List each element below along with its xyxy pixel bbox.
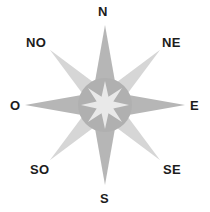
compass-label-ne: NE xyxy=(162,36,181,49)
compass-label-o: O xyxy=(10,99,20,112)
compass-label-se: SE xyxy=(163,163,181,176)
compass-hub-star xyxy=(81,81,129,129)
compass-label-no: NO xyxy=(26,36,46,49)
compass-label-e: E xyxy=(190,99,199,112)
compass-label-s: S xyxy=(100,192,109,205)
compass-label-so: SO xyxy=(30,163,49,176)
compass-rose-graphic xyxy=(0,0,210,212)
compass-rose-figure: N NE E SE S SO O NO xyxy=(0,0,210,212)
compass-label-n: N xyxy=(98,5,108,18)
